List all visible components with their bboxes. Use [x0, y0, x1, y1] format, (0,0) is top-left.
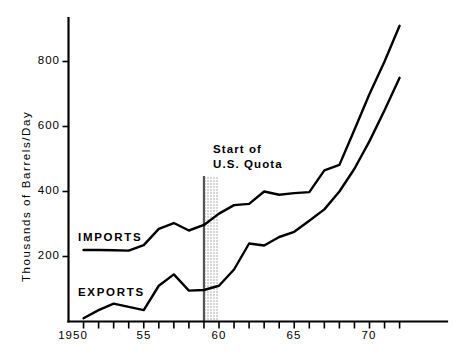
- series-line-exports: [84, 78, 400, 319]
- x-tick-label-70: 70: [353, 329, 385, 341]
- x-tick-label-60: 60: [203, 329, 235, 341]
- quota-band-shading: [204, 176, 219, 321]
- x-tick-label-1950: 1950: [47, 329, 99, 341]
- series-label-exports: EXPORTS: [78, 286, 145, 298]
- y-tick-label-600: 600: [14, 119, 60, 131]
- x-tick-label-65: 65: [278, 329, 310, 341]
- series-label-imports: IMPORTS: [78, 231, 142, 243]
- x-tick-label-55: 55: [128, 329, 160, 341]
- y-tick-label-400: 400: [14, 184, 60, 196]
- y-tick-label-200: 200: [14, 249, 60, 261]
- chart-canvas: [0, 0, 453, 363]
- chart-container: Thousands of Barrels/Day 800 600 400 200…: [0, 0, 453, 363]
- series-line-imports: [84, 26, 400, 251]
- annotation-quota-line2: U.S. Quota: [213, 158, 283, 172]
- annotation-quota-line1: Start of: [213, 143, 262, 157]
- y-tick-label-800: 800: [14, 54, 60, 66]
